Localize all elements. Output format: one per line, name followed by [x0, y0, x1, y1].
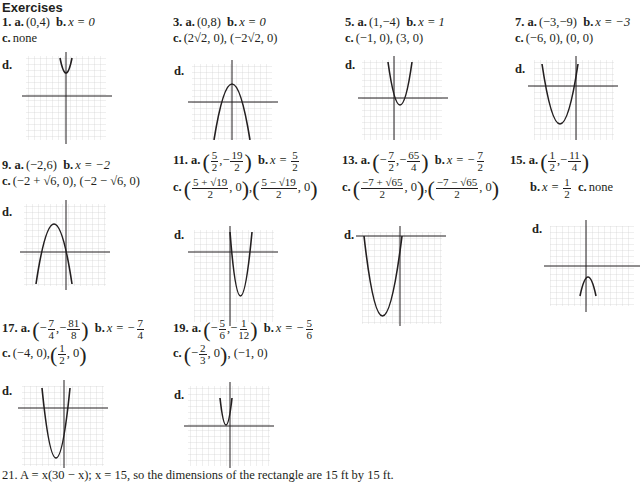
- section-heading: Exercises: [2, 0, 63, 15]
- exercise-3: 3. a.(0,8) b.x = 0 c.(2√2, 0), (−2√2, 0): [173, 14, 277, 46]
- part-d-label-19: d.: [174, 388, 184, 403]
- exercise-15: 15. a.(12,−114) b.x = 12 c.none: [510, 150, 613, 200]
- part-d-label-9: d.: [2, 205, 12, 220]
- part-d-label-11: d.: [174, 228, 184, 243]
- graph-ex5: [358, 56, 450, 140]
- graph-ex13: [356, 226, 448, 326]
- graph-ex1: [22, 52, 114, 144]
- part-d-label-3: d.: [174, 64, 184, 79]
- exercise-13: 13. a.(−72,−654) b.x = −72 c.(−7 + √652,…: [342, 150, 499, 200]
- graph-ex11: [188, 226, 280, 326]
- exercise-1: 1. a.(0,4) b.x = 0 c.none: [2, 14, 95, 46]
- exercise-5: 5. a.(1,−4) b.x = 1 c.(−1, 0), (3, 0): [345, 14, 445, 46]
- part-d-label-7: d.: [515, 62, 525, 77]
- part-d-label-13: d.: [344, 228, 354, 243]
- exercise-11: 11. a.(52,−192) b.x = 52 c.(5 + √192, 0)…: [173, 150, 318, 200]
- part-d-label-15: d.: [532, 222, 542, 237]
- exercise-19: 19. a.(−56,−112) b.x = −56 c.(−23, 0), (…: [173, 318, 314, 366]
- part-d-label-1: d.: [2, 58, 12, 73]
- graph-ex3: [188, 60, 280, 140]
- graph-ex17: [18, 380, 112, 468]
- part-d-label-17: d.: [2, 384, 12, 399]
- graph-ex7: [528, 56, 620, 140]
- part-d-label-5: d.: [345, 58, 355, 73]
- graph-ex19: [184, 382, 278, 468]
- exercise-21-partial: 21. A = x(30 − x); x = 15, so the dimens…: [2, 468, 394, 483]
- exercise-7: 7. a.(−3,−9) b.x = −3 c.(−6, 0), (0, 0): [515, 14, 630, 46]
- exercise-9: 9. a.(−2,6) b.x = −2 c.(−2 + √6, 0), (−2…: [2, 157, 140, 189]
- exercise-17: 17. a.(−74,−818) b.x = −74 c.(−4, 0),(12…: [2, 318, 145, 366]
- graph-ex9: [20, 200, 112, 290]
- graph-ex15: [544, 220, 640, 312]
